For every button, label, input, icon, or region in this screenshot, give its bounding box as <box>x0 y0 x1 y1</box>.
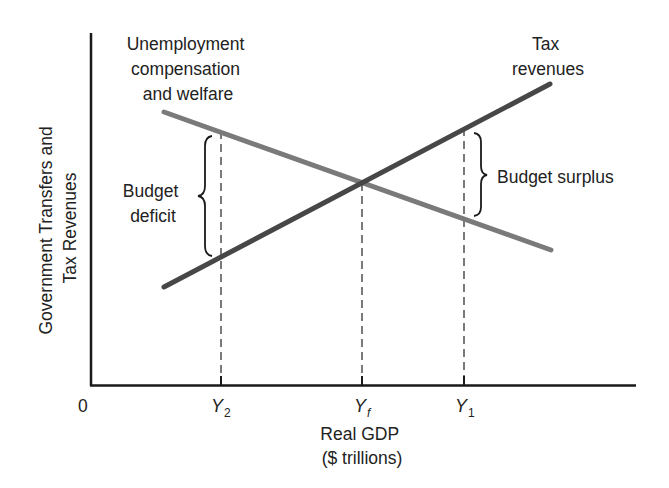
deficit-brace <box>198 136 212 256</box>
y-axis-label: Government Transfers and Tax Revenues <box>36 121 80 334</box>
x-axis-label: Real GDP ($ trillions) <box>320 424 403 468</box>
diagram-canvas: Unemployment compensation and welfare Ta… <box>0 0 669 488</box>
budget-diagram: Unemployment compensation and welfare Ta… <box>0 0 669 488</box>
surplus-brace <box>474 133 487 216</box>
tick-label-y2: Y2 <box>211 396 231 420</box>
budget-surplus-label: Budget surplus <box>497 167 614 187</box>
tax-revenues-label: Tax revenues <box>512 34 584 79</box>
transfers-line <box>164 112 551 250</box>
transfers-label: Unemployment compensation and welfare <box>127 34 250 104</box>
budget-deficit-label: Budget deficit <box>123 181 183 226</box>
tick-label-y1: Y1 <box>455 396 475 420</box>
tax-revenues-line <box>164 84 550 287</box>
tick-label-yf: Yf <box>354 396 372 420</box>
origin-label: 0 <box>78 396 88 416</box>
